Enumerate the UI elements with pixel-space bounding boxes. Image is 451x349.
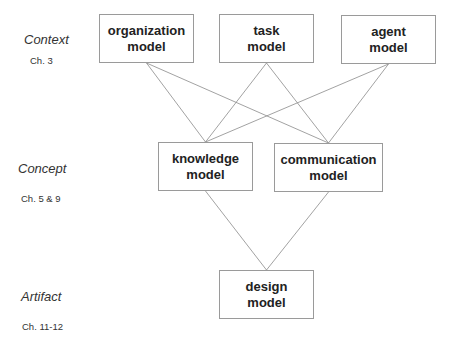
box-subtitle: model: [247, 39, 285, 55]
chapter-label-artifact: Ch. 11-12: [22, 321, 63, 332]
communication-model-box: communication model: [274, 143, 383, 192]
link-organization-to-knowledge: [147, 63, 206, 142]
link-agent-to-knowledge: [206, 64, 389, 142]
knowledge-model-box: knowledge model: [158, 142, 253, 191]
link-organization-to-communication: [147, 63, 329, 143]
link-knowledge-to-design: [206, 191, 267, 270]
level-label-artifact: Artifact: [21, 289, 61, 304]
box-title: design: [246, 279, 288, 295]
box-subtitle: model: [127, 39, 165, 55]
box-title: agent: [371, 24, 406, 40]
link-agent-to-communication: [329, 64, 389, 143]
box-subtitle: model: [186, 167, 224, 183]
level-label-context: Context: [24, 32, 69, 47]
box-title: knowledge: [172, 151, 239, 167]
link-task-to-knowledge: [206, 63, 267, 142]
chapter-label-context: Ch. 3: [30, 55, 53, 66]
design-model-box: design model: [219, 270, 314, 319]
box-subtitle: model: [369, 40, 407, 56]
commonkads-model-suite-diagram: Context Ch. 3 Concept Ch. 5 & 9 Artifact…: [0, 0, 451, 349]
box-title: task: [253, 23, 279, 39]
level-label-concept: Concept: [18, 161, 66, 176]
agent-model-box: agent model: [341, 15, 436, 64]
box-subtitle: model: [247, 295, 285, 311]
box-title: organization: [108, 23, 185, 39]
organization-model-box: organization model: [99, 14, 194, 63]
chapter-label-concept: Ch. 5 & 9: [21, 193, 61, 204]
box-title: communication: [280, 152, 376, 168]
link-communication-to-design: [267, 192, 329, 270]
box-subtitle: model: [309, 168, 347, 184]
task-model-box: task model: [219, 14, 314, 63]
